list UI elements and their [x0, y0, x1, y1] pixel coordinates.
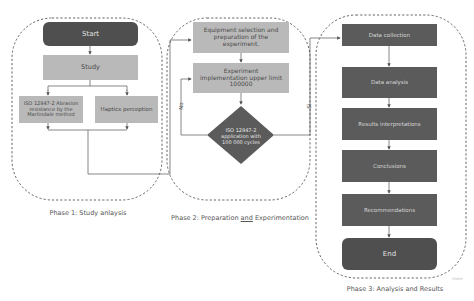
phase2-label: Phase 2: Preparation and Experimentation [171, 214, 309, 222]
data-collection-label: Data collection [369, 32, 410, 38]
phase2-label-pre: Phase 2: Preparation [171, 214, 240, 222]
phase1-label: Phase 1: Study anlaysis [49, 209, 126, 217]
conclusions-node: Conclusions [342, 150, 437, 182]
decision-label: ISO 12947-2 application with 100 000 cyc… [221, 127, 261, 145]
watermark: more [452, 276, 462, 281]
start-label: Start [82, 30, 99, 38]
experiment-label: Experiment implementation upper limit 10… [199, 68, 283, 89]
phase2-label-under: and [241, 214, 253, 222]
equipment-node: Equipment selection and preparation of t… [193, 22, 289, 53]
experiment-node: Experiment implementation upper limit 10… [193, 63, 289, 93]
recommendations-node: Recommendations [342, 194, 437, 226]
results-node: Results interpretations [342, 108, 437, 140]
phase3-label-text: Phase 3: Analysis and Results [347, 285, 443, 293]
haptics-node: Haptics perception [95, 96, 158, 123]
iso-abrasion-label: ISO 12947-2 Abrasion resistance by the M… [21, 101, 81, 118]
phase1-label-text: Phase 1: Study anlaysis [49, 209, 126, 217]
results-label: Results interpretations [358, 121, 420, 127]
data-analysis-node: Data analysis [342, 67, 437, 98]
end-label: End [383, 250, 396, 258]
recommendations-label: Recommendations [364, 207, 415, 213]
no-edge-label: No [178, 102, 184, 109]
study-label: Study [81, 64, 100, 71]
data-collection-node: Data collection [342, 24, 437, 46]
haptics-label: Haptics perception [101, 106, 153, 112]
no-label-text: No [178, 102, 184, 109]
end-node: End [342, 238, 437, 270]
yes-label-text: Si [306, 103, 312, 108]
phase3-label: Phase 3: Analysis and Results [347, 285, 443, 293]
conclusions-label: Conclusions [373, 163, 406, 169]
decision-label-text: ISO 12947-2 application with 100 000 cyc… [221, 127, 261, 145]
iso-abrasion-node: ISO 12947-2 Abrasion resistance by the M… [19, 96, 83, 123]
watermark-text: more [452, 276, 462, 281]
equipment-label: Equipment selection and preparation of t… [197, 27, 285, 48]
phase2-label-post: Experimentation [253, 214, 309, 222]
start-node: Start [43, 22, 138, 46]
study-node: Study [43, 55, 138, 80]
yes-edge-label: Si [306, 103, 312, 108]
data-analysis-label: Data analysis [371, 79, 408, 85]
